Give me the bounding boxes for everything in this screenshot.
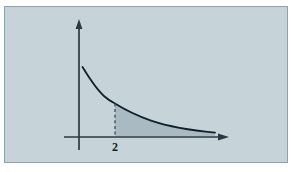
y-axis-arrow-icon (76, 19, 83, 29)
plot-canvas: 2 (0, 0, 293, 172)
figure-root: 2 (0, 0, 293, 172)
x-tick-label-2: 2 (112, 140, 118, 154)
x-axis-arrow-icon (218, 133, 229, 140)
